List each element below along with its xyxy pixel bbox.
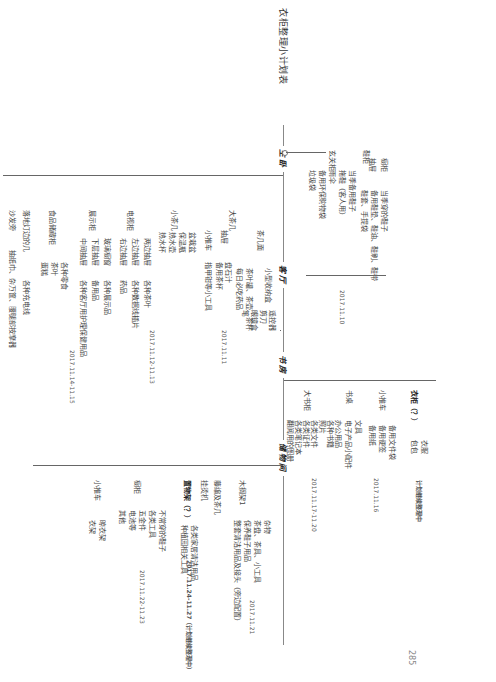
- date-label: 2017.11.17-11.20: [311, 478, 318, 532]
- group-tv-cabinet: 电视柜: [126, 210, 134, 231]
- group-wood-shelf: 木搁架1: [238, 480, 246, 505]
- item: 各种数据线插片: [131, 280, 139, 329]
- item: 各类证件: [302, 420, 310, 448]
- page-number: 285: [407, 650, 416, 665]
- item: 热水壶: [168, 232, 176, 253]
- item: 茶盘、茶具、小工具: [253, 520, 261, 583]
- group-rattan: 藤编及茶几: [213, 480, 221, 515]
- group-small-coffee-table: 小茶几: [170, 210, 178, 231]
- group-rack: 置物架（？）: [183, 480, 191, 522]
- item: 不常穿的鞋子: [158, 510, 166, 552]
- item: 当季穿的鞋子: [380, 190, 388, 232]
- sub-cupboard: 橱柜: [380, 158, 388, 172]
- group-display-cabinet: 展示柜: [88, 210, 96, 231]
- sub-right-drawer: 右边抽屉: [119, 238, 127, 266]
- group-steamer: 挂烫机: [200, 480, 208, 501]
- item: 盆栽盆: [188, 232, 196, 253]
- sub-lower-drawer: 下层抽屉: [91, 238, 99, 266]
- storage-trunk: [33, 465, 283, 466]
- item: 五金件: [138, 510, 146, 531]
- study-trunk: [284, 380, 436, 381]
- date-label: 计划继续整理中: [415, 480, 424, 522]
- item: 其他: [118, 510, 126, 524]
- group-study-cart: 小推车: [378, 390, 386, 411]
- page-title: 衣柜整理小计划表: [277, 8, 290, 84]
- item: 各种书籍: [326, 420, 334, 448]
- item: 备用文件袋: [388, 425, 396, 460]
- item: 照片: [318, 420, 326, 434]
- item: 翻阅用的图册: [286, 420, 294, 462]
- group-big-bookcase: 大书柜: [303, 390, 311, 411]
- date-label: 2017.11.16: [373, 478, 380, 512]
- sub-tabletop: 茶几面: [256, 230, 264, 251]
- item: 蛋糕: [40, 262, 48, 276]
- date-label: 2017.11.24-11.27（计划继续整理中）: [185, 560, 194, 673]
- item: 晾衣架: [98, 520, 106, 541]
- item: 包包: [410, 440, 418, 454]
- sub-middle-drawer: 中间抽屉: [79, 238, 87, 266]
- group-desk: 书桌: [345, 390, 353, 404]
- item: 拖鞋（客人用）: [338, 170, 346, 219]
- date-label: 2017.11.22-11.23: [139, 570, 146, 624]
- connector: [286, 152, 326, 153]
- item: 剪刀: [259, 310, 267, 324]
- item: 备用鞋垫、鞋油、鞋刷、鞋带: [370, 190, 378, 281]
- item: 衣服: [420, 440, 428, 454]
- item: 杂物: [263, 520, 271, 534]
- date-label: 2017.11.10: [339, 290, 346, 324]
- group-pantry: 食品储藏柜: [48, 210, 56, 245]
- rotated-page: 衣柜整理小计划表 主卧 客厅 书房 储物间 鞋柜 橱柜 当季穿的鞋子 抽屉 备用…: [0, 0, 496, 682]
- item: 热水杯: [158, 232, 166, 253]
- item: 雨伞: [328, 170, 336, 184]
- item: 办公用品: [334, 420, 342, 448]
- item: 鞋套、手提袋: [360, 190, 368, 232]
- sub-glass: 玻璃橱窗: [103, 238, 111, 266]
- item: 茶叶罐、茶壶、茶杯: [245, 268, 253, 331]
- item: 备用茶杯: [215, 262, 223, 290]
- item: 各种展示品: [103, 280, 111, 315]
- item: 各类笔记本: [294, 420, 302, 455]
- item: 各类文件: [310, 420, 318, 448]
- item: 各类工具: [148, 510, 156, 538]
- item: 抽纸巾、杂万筐、腰腿部按摩器: [8, 250, 16, 348]
- item: 衣架: [88, 520, 96, 534]
- item: 盘石汁: [224, 262, 232, 283]
- group-wardrobe: 衣柜（？）: [410, 390, 418, 425]
- bracket: [306, 275, 386, 276]
- main-spine: [283, 125, 284, 645]
- item: 整套清洁用品及接头（旁边配置）: [233, 520, 241, 625]
- item: 文具: [354, 420, 362, 434]
- sub-cart: 小推车: [204, 230, 212, 251]
- item: 当季备用鞋子: [348, 170, 356, 212]
- sub-drawers: 两边抽屉: [143, 238, 151, 266]
- item: 备用纸: [368, 425, 376, 446]
- group-entry-cabinet: 玄关柜: [328, 150, 336, 171]
- group-floor-lamp-table: 落地灯边的几: [22, 210, 30, 252]
- item: 备用便签: [378, 425, 386, 453]
- item: 保养鞋子用品: [243, 520, 251, 562]
- group-storage-cart: 小推车: [93, 480, 101, 501]
- room-label-study: 书房: [278, 352, 289, 378]
- item: 遥控器: [268, 310, 276, 331]
- item: 保温瓶: [178, 232, 186, 253]
- date-label: 2017.11.21: [249, 600, 256, 634]
- node-dot: [282, 150, 288, 156]
- sub-left-drawer: 左边抽屉: [131, 238, 139, 266]
- date-label: 2017.11.11: [221, 330, 228, 364]
- living-room-trunk: [3, 175, 283, 176]
- group-big-coffee-table: 大茶几: [228, 210, 236, 231]
- item: 垃圾袋: [308, 170, 316, 191]
- item: 各种零食: [60, 262, 68, 290]
- bracket: [280, 330, 281, 331]
- date-label: 2017.11.14-11.15: [69, 350, 76, 404]
- item: 各种充电线: [22, 280, 30, 315]
- date-label: 2017.11.12-11.13: [149, 330, 156, 384]
- item: 指甲钳等小工具: [204, 262, 212, 311]
- room-label-living-room: 客厅: [278, 262, 289, 288]
- item: 茶叶: [50, 262, 58, 276]
- item: 每日必吃药品: [235, 268, 243, 310]
- sub-drawer: 抽屉: [220, 230, 228, 244]
- item: 备用环保购物袋: [318, 170, 326, 219]
- item: 电子产品小配件: [344, 420, 352, 469]
- sub-drawer: 抽屉: [368, 158, 376, 172]
